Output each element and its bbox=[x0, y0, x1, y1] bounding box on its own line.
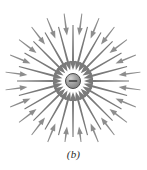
field-arrow bbox=[33, 41, 65, 73]
field-arrow bbox=[81, 89, 113, 121]
field-arrow bbox=[10, 99, 31, 108]
field-arrow bbox=[119, 85, 141, 91]
figure-container: (b) bbox=[0, 0, 147, 170]
field-arrow bbox=[10, 55, 31, 64]
field-arrow bbox=[119, 71, 141, 77]
point-charge bbox=[66, 74, 81, 89]
field-arrow bbox=[6, 85, 28, 91]
electric-field-diagram bbox=[0, 0, 147, 145]
figure-caption: (b) bbox=[0, 148, 147, 160]
field-arrow bbox=[91, 18, 100, 39]
field-arrow bbox=[63, 14, 69, 36]
field-arrow bbox=[116, 55, 137, 64]
field-arrow bbox=[47, 18, 56, 39]
field-arrow bbox=[116, 99, 137, 108]
field-arrow bbox=[77, 14, 83, 36]
field-arrow bbox=[77, 127, 83, 142]
field-arrow bbox=[47, 124, 55, 143]
field-arrow bbox=[81, 41, 113, 73]
field-arrow bbox=[6, 71, 28, 77]
field-arrow bbox=[91, 124, 99, 143]
field-arrow bbox=[63, 127, 69, 142]
field-arrow bbox=[33, 89, 65, 121]
